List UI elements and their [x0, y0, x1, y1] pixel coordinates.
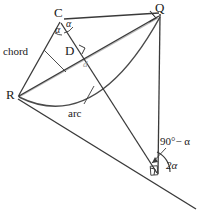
arc-curve-group: [19, 17, 160, 106]
geometry-figure: C Q D R α α chord arc d 2α 90°− α: [0, 0, 206, 217]
point-label-r: R: [6, 88, 15, 101]
arc-curve: [19, 17, 160, 106]
point-label-d: D: [65, 44, 74, 57]
baseline: [18, 99, 196, 209]
chord-line-group: [19, 16, 159, 96]
angle-label-ninety-minus-alpha: 90°− α: [160, 136, 190, 147]
arc-label: arc: [68, 108, 81, 119]
angle-label-alpha-right: α: [66, 19, 71, 29]
chord-line: [19, 16, 159, 96]
diagram-canvas: [0, 0, 206, 217]
segment-c-q: [64, 13, 159, 19]
diameter-label: d: [83, 60, 88, 69]
leader-line-angle: [152, 148, 166, 163]
chord-label: chord: [3, 46, 28, 57]
vertex-dot-r: [18, 95, 20, 97]
angle-label-alpha-left: α: [55, 25, 60, 35]
point-label-q: Q: [155, 1, 164, 14]
angle-label-two-alpha: 2α: [166, 160, 177, 171]
point-label-c: C: [54, 6, 63, 19]
segment-q-v: [158, 16, 160, 174]
leader-line-chord: [44, 50, 66, 72]
